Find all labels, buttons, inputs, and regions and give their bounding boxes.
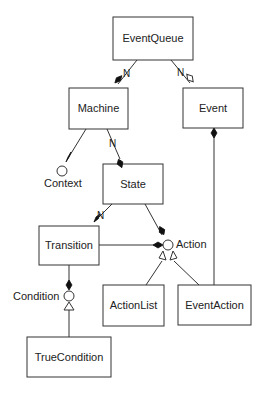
interface-action-icon bbox=[163, 240, 173, 250]
class-transition: Transition bbox=[39, 226, 99, 265]
composition-diamond-icon bbox=[66, 152, 71, 162]
composition-diamond-icon bbox=[153, 242, 163, 248]
class-eventqueue: EventQueue bbox=[113, 17, 193, 60]
interface-label: Condition bbox=[13, 290, 59, 302]
realization-arrow-icon bbox=[64, 302, 74, 310]
multiplicity-label: N bbox=[177, 67, 184, 78]
composition-diamond-icon bbox=[66, 280, 72, 290]
realization-arrow-icon bbox=[170, 251, 177, 260]
class-actionlist: ActionList bbox=[103, 285, 164, 326]
class-machine: Machine bbox=[69, 88, 128, 129]
class-label: EventQueue bbox=[122, 32, 183, 44]
interface-context-icon bbox=[57, 166, 67, 176]
composition-diamond-icon bbox=[211, 128, 217, 138]
actionlist-action-line bbox=[146, 261, 162, 285]
class-state: State bbox=[103, 164, 163, 204]
class-label: EventAction bbox=[185, 299, 244, 311]
multiplicity-label: N bbox=[123, 68, 130, 79]
interface-condition-icon bbox=[64, 291, 74, 301]
class-eventaction: EventAction bbox=[178, 285, 251, 325]
class-label: ActionList bbox=[110, 299, 158, 311]
interface-label: Action bbox=[176, 238, 207, 250]
multiplicity-label: N bbox=[97, 210, 104, 221]
class-label: Machine bbox=[78, 102, 120, 114]
eventaction-action-line bbox=[174, 261, 199, 285]
realization-arrow-icon bbox=[159, 251, 166, 260]
class-event: Event bbox=[183, 88, 243, 128]
multiplicity-label: N bbox=[109, 138, 116, 149]
class-truecondition: TrueCondition bbox=[27, 337, 111, 377]
uml-diagram: EventQueue Machine Event State Transitio… bbox=[0, 0, 265, 395]
class-label: Transition bbox=[45, 239, 93, 251]
class-label: Event bbox=[199, 102, 227, 114]
class-label: TrueCondition bbox=[35, 351, 104, 363]
interface-label: Context bbox=[44, 177, 82, 189]
class-label: State bbox=[120, 178, 146, 190]
